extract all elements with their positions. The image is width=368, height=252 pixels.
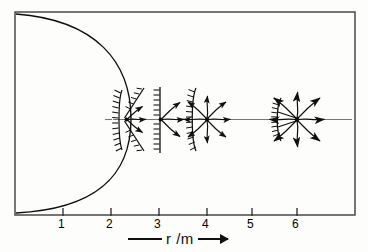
arrow-head-icon	[220, 234, 229, 244]
x-tick-label-6: 6	[292, 217, 299, 231]
x-tick-label-4: 4	[202, 217, 209, 231]
x-tick-label-5: 5	[247, 217, 254, 231]
vector-cluster-r6	[270, 92, 325, 147]
axis-label-leader-dash	[128, 238, 162, 240]
figure-container: 1 2 3 4 5 6 r /m	[0, 0, 368, 252]
plot-frame	[15, 12, 355, 215]
x-tick-label-1: 1	[58, 217, 65, 231]
x-axis-label: r /m	[166, 230, 194, 247]
physics-diagram	[0, 0, 368, 252]
vector-cluster-r4	[184, 88, 231, 151]
parabolic-reflector	[16, 14, 131, 213]
x-axis-label-group: r /m	[128, 230, 228, 247]
axis-label-trailing-arrow	[198, 238, 228, 240]
x-tick-label-2: 2	[106, 217, 113, 231]
x-tick-label-3: 3	[154, 217, 161, 231]
